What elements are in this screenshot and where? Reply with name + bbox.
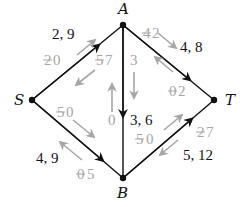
residual-b-t-forward: 5 0 — [135, 131, 154, 147]
residual-s-a-backward: 5 7 — [95, 52, 113, 68]
node-b: B — [116, 175, 128, 202]
residual-new-value: 0 — [66, 104, 74, 120]
edge-a-b-label: 3, 6 — [130, 112, 153, 128]
residual-new-value: 0 — [146, 131, 154, 147]
residual-a-b-forward: 3 — [130, 52, 138, 68]
residual-a-t-forward: 4 2 — [142, 25, 160, 41]
residual-s-b-backward: 0 5 — [76, 166, 95, 182]
residual-s-a-forward: 2 0 — [43, 52, 61, 68]
node-a: A — [116, 0, 129, 28]
node-b-label: B — [116, 184, 128, 202]
residual-s-b-forward: 5 0 — [56, 104, 74, 120]
residual-a-b-backward: 0 — [108, 112, 116, 128]
edge-s-b-label: 4, 9 — [36, 150, 59, 166]
node-t: T — [211, 91, 236, 109]
residual-new-value: 7 — [206, 124, 214, 140]
residual-a-t-backward: 0 2 — [168, 83, 186, 99]
node-t-label: T — [225, 91, 236, 109]
flow-network-diagram: A S T B 2, 9 4, 8 4, 9 5, 12 3, 6 2 0 5 … — [0, 0, 248, 207]
residual-arrows — [60, 33, 182, 160]
residual-new-value: 7 — [105, 52, 113, 68]
edge-s-a-label: 2, 9 — [52, 26, 75, 42]
node-s: S — [14, 91, 35, 109]
residual-new-value: 5 — [87, 166, 95, 182]
edge-b-t-label: 5, 12 — [183, 147, 213, 163]
residual-new-value: 2 — [152, 25, 160, 41]
node-s-label: S — [14, 91, 24, 109]
edge-a-t-label: 4, 8 — [180, 39, 203, 55]
residual-new-value: 0 — [53, 52, 61, 68]
node-a-label: A — [116, 0, 129, 18]
residual-b-t-backward: 2 7 — [196, 124, 214, 140]
residual-new-value: 2 — [178, 83, 186, 99]
